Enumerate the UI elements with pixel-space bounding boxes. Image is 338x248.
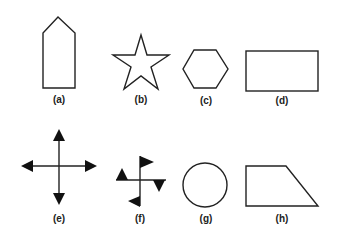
pinwheel-icon [116,156,166,207]
shape-f: (f) [116,156,166,224]
label-d: (d) [276,95,289,106]
rectangle-icon [246,51,318,91]
label-g: (g) [200,213,213,224]
hexagon-icon [183,50,228,88]
shape-d: (d) [246,51,318,106]
label-b: (b) [135,94,148,105]
label-f: (f) [135,213,145,224]
shape-c: (c) [183,50,228,106]
label-c: (c) [200,95,212,106]
pentagon-icon [43,17,75,88]
label-a: (a) [53,94,65,105]
label-e: (e) [53,213,65,224]
trapezoid-icon [246,166,318,206]
four-way-arrow-icon [21,129,97,205]
shape-g: (g) [183,163,227,224]
shape-b: (b) [113,35,169,105]
shape-e: (e) [21,129,97,224]
label-h: (h) [276,213,289,224]
shape-h: (h) [246,166,318,224]
shape-a: (a) [43,17,75,105]
star-icon [113,35,169,89]
circle-icon [183,163,227,207]
shapes-figure: (a) (b) (c) (d) (e) [0,0,338,248]
